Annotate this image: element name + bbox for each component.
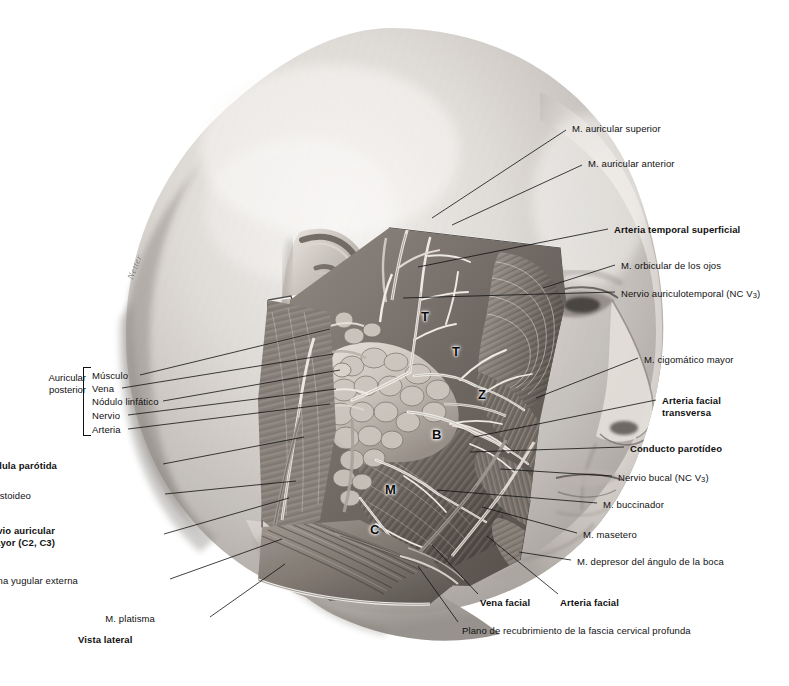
anatomy-label: Nervio auricularmayor (C2, C3) <box>0 525 55 548</box>
anatomy-plate: M. auricular superiorM. auricular anteri… <box>0 0 789 686</box>
anatomy-label-line: mayor (C2, C3) <box>0 537 55 549</box>
subscript: 3 <box>753 291 757 300</box>
subscript: 3 <box>701 475 705 484</box>
facial-nerve-branch-marker: T <box>452 345 460 358</box>
anatomy-label: Arteria temporal superficial <box>614 224 740 236</box>
anatomy-label-line: transversa <box>662 407 721 419</box>
group-label-line2: posterior <box>40 384 86 396</box>
view-caption: Vista lateral <box>78 634 132 646</box>
group-bracket <box>83 367 91 436</box>
anatomy-label: M. auricular anterior <box>588 158 675 170</box>
anatomy-label: M. buccinador <box>603 499 664 511</box>
anatomy-label: Vena yugular externa <box>0 575 78 587</box>
anatomy-label: M. depresor del ángulo de la boca <box>577 556 724 568</box>
anatomy-label: M. auricular superior <box>572 123 661 135</box>
anatomy-label: Plano de recubrimiento de la fascia cerv… <box>462 625 691 637</box>
facial-nerve-branch-marker: C <box>370 523 379 536</box>
anatomy-label: M. platisma <box>105 613 155 625</box>
anatomy-label-line: Nervio auricular <box>0 525 55 537</box>
anatomy-label-line: Arteria facial <box>662 395 721 407</box>
anatomy-label: M. esternocleidomastoideo <box>0 490 31 502</box>
anatomy-label: Nervio <box>92 410 120 422</box>
anatomy-label: M. cigomático mayor <box>644 354 734 366</box>
group-label-line1: Auricular <box>40 372 86 384</box>
anatomy-label: Conducto parotídeo <box>630 443 722 455</box>
anatomy-label: Nervio bucal (NC V3) <box>618 472 709 486</box>
anatomy-label: Arteria <box>92 424 121 436</box>
anatomy-label: Arteria facialtransversa <box>662 395 721 418</box>
facial-nerve-branch-marker: M <box>385 483 396 496</box>
facial-nerve-branch-marker: B <box>432 428 441 441</box>
anatomy-label: M. masetero <box>583 529 637 541</box>
facial-nerve-branch-marker: Z <box>478 388 486 401</box>
facial-nerve-branch-marker: T <box>421 310 429 323</box>
anatomy-label: Arteria facial <box>560 597 619 609</box>
group-label-auricular-posterior: Auricular posterior <box>40 372 86 395</box>
anatomy-label: Vena <box>92 383 114 395</box>
head-dissection-illustration <box>0 0 789 686</box>
anatomy-label: Músculo <box>92 370 128 382</box>
anatomy-label: Nervio auriculotemporal (NC V3) <box>621 288 760 302</box>
anatomy-label: Glándula parótida <box>0 460 57 472</box>
anatomy-label: Nódulo linfático <box>92 396 159 408</box>
anatomy-label: Vena facial <box>480 597 530 609</box>
anatomy-label: M. orbicular de los ojos <box>621 260 721 272</box>
